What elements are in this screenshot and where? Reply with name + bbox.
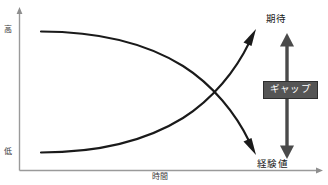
- x-axis-arrowhead-icon: [316, 168, 323, 174]
- y-axis-high-label: 高: [4, 26, 12, 34]
- x-axis-time-label: 時間: [152, 173, 169, 181]
- gap-arrow-up-head: [280, 33, 294, 47]
- declining-curve-path: [41, 32, 249, 142]
- gap-badge-label: ギャップ: [263, 81, 318, 99]
- y-axis-low-label: 低: [4, 148, 12, 156]
- rising-curve-arrowhead-icon: [244, 29, 257, 46]
- rising-curve-path: [41, 43, 249, 153]
- y-axis: [17, 7, 23, 171]
- gap-arrow-down-head: [280, 146, 294, 160]
- y-axis-arrowhead-icon: [17, 7, 23, 14]
- declining-curve-experience: [41, 32, 256, 156]
- expectation-curve-label: 期待: [266, 14, 287, 24]
- declining-curve-arrowhead-icon: [244, 138, 257, 155]
- experience-curve-label: 経験値: [257, 159, 288, 169]
- expectation-experience-gap-diagram: 高 低 時間 期待 経験値 ギャップ: [0, 0, 328, 185]
- rising-curve-expectation: [41, 29, 256, 153]
